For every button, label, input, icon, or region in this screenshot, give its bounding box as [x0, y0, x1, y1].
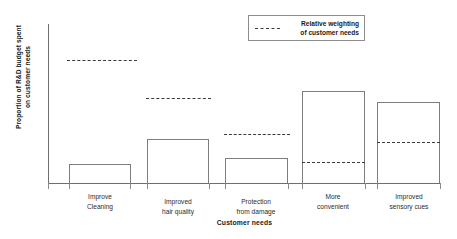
- weighting-line-protection-from-damage: [224, 134, 290, 135]
- x-axis-label-improved-sensory-cues: Improved sensory cues: [368, 192, 450, 211]
- x-axis-label-improve-cleaning: Improve Cleaning: [60, 192, 140, 211]
- x-axis-tick: [225, 183, 226, 189]
- x-axis-label-line2: convenient: [317, 203, 349, 210]
- weighting-line-improved-sensory-cues: [377, 142, 440, 143]
- bar-improve-cleaning: [69, 164, 131, 183]
- x-axis-label-improved-hair-quality: Improved hair quality: [138, 197, 218, 216]
- y-axis-title: Proportion of R&D budget spent on custom…: [14, 2, 32, 152]
- x-axis-label-line2: from damage: [237, 208, 276, 215]
- weighting-line-more-convenient: [302, 162, 365, 163]
- x-axis-tick: [48, 183, 49, 189]
- legend-label-line1: Relative weighting: [301, 20, 359, 27]
- x-axis-label-line1: Improve: [88, 193, 112, 200]
- x-axis-title: Customer needs: [48, 219, 441, 226]
- legend-label: Relative weighting of customer needs: [285, 19, 359, 38]
- weighting-line-improve-cleaning: [67, 60, 137, 61]
- x-axis-tick: [302, 183, 303, 189]
- bar-more-convenient: [302, 91, 365, 183]
- bar-improved-hair-quality: [147, 139, 209, 183]
- x-axis-label-line2: hair quality: [162, 208, 194, 215]
- bar-protection-from-damage: [225, 158, 288, 183]
- x-axis-tick: [440, 183, 441, 189]
- x-axis-label-protection-from-damage: Protection from damage: [216, 197, 296, 216]
- x-axis-tick: [288, 183, 289, 189]
- x-axis-label-more-convenient: More convenient: [293, 192, 373, 211]
- y-axis-line: [48, 24, 49, 183]
- x-axis-label-line1: More: [325, 193, 340, 200]
- legend: Relative weighting of customer needs: [248, 15, 365, 41]
- weighting-line-improved-hair-quality: [146, 98, 211, 99]
- x-axis-tick: [147, 183, 148, 189]
- x-axis-label-line2: sensory cues: [390, 203, 429, 210]
- chart-container: Proportion of R&D budget spent on custom…: [0, 0, 457, 239]
- x-axis-tick: [377, 183, 378, 189]
- x-axis-label-line1: Improved: [395, 193, 423, 200]
- y-axis-title-line2: on customer needs: [24, 46, 31, 108]
- legend-dashed-line-icon: [255, 28, 280, 29]
- legend-label-line2: of customer needs: [300, 29, 359, 36]
- x-axis-tick: [69, 183, 70, 189]
- x-axis-label-line1: Improved: [164, 198, 192, 205]
- x-axis-tick: [130, 183, 131, 189]
- x-axis-label-line2: Cleaning: [87, 203, 113, 210]
- y-axis-title-line1: Proportion of R&D budget spent: [15, 25, 22, 129]
- x-axis-label-line1: Protection: [241, 198, 271, 205]
- x-axis-tick: [209, 183, 210, 189]
- x-axis-line: [48, 183, 441, 184]
- x-axis-tick: [365, 183, 366, 189]
